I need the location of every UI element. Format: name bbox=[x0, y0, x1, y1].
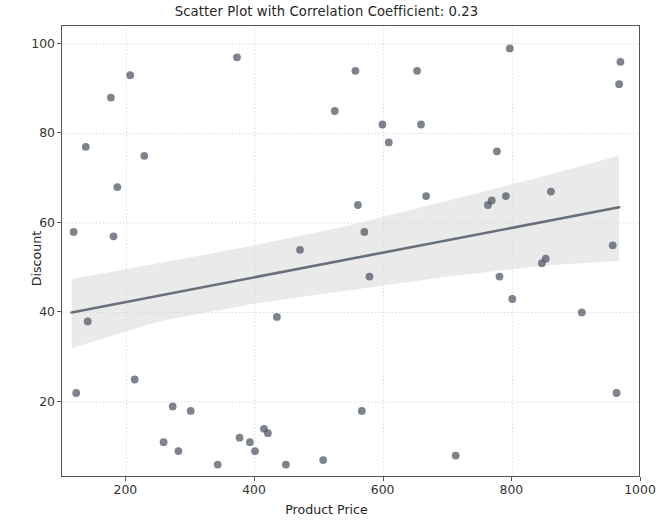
data-point bbox=[352, 67, 360, 75]
y-tick-label: 60 bbox=[15, 214, 55, 229]
data-point bbox=[542, 255, 550, 263]
x-tick-label: 400 bbox=[242, 482, 266, 497]
data-point bbox=[70, 228, 78, 236]
data-point bbox=[488, 197, 496, 205]
data-point bbox=[296, 246, 304, 254]
x-tick-mark bbox=[383, 477, 384, 481]
data-point bbox=[107, 94, 115, 102]
data-point bbox=[379, 121, 387, 129]
x-tick-label: 200 bbox=[114, 482, 138, 497]
data-point bbox=[613, 389, 621, 397]
data-point bbox=[175, 447, 183, 455]
data-point bbox=[385, 139, 393, 147]
x-tick-label: 800 bbox=[500, 482, 524, 497]
data-point bbox=[609, 241, 617, 249]
confidence-band bbox=[72, 156, 619, 348]
data-point bbox=[354, 201, 362, 209]
data-point bbox=[417, 121, 425, 129]
data-point bbox=[502, 192, 510, 200]
x-tick-label: 600 bbox=[371, 482, 395, 497]
data-point bbox=[82, 143, 90, 151]
y-tick-label: 40 bbox=[15, 304, 55, 319]
y-tick-label: 20 bbox=[15, 393, 55, 408]
data-point bbox=[246, 438, 254, 446]
data-point bbox=[187, 407, 195, 415]
data-point bbox=[506, 45, 514, 53]
y-tick-mark bbox=[57, 311, 61, 312]
page-title: Scatter Plot with Correlation Coefficien… bbox=[0, 4, 653, 19]
data-point bbox=[160, 438, 168, 446]
y-tick-mark bbox=[57, 222, 61, 223]
data-point bbox=[126, 71, 134, 79]
data-point bbox=[264, 429, 272, 437]
data-point bbox=[358, 407, 366, 415]
plot-canvas bbox=[62, 26, 640, 477]
x-tick-mark bbox=[254, 477, 255, 481]
data-point bbox=[84, 318, 92, 326]
data-point bbox=[110, 232, 118, 240]
data-point bbox=[236, 434, 244, 442]
y-tick-mark bbox=[57, 43, 61, 44]
data-point bbox=[493, 147, 501, 155]
data-point bbox=[422, 192, 430, 200]
x-tick-label: 1000 bbox=[624, 482, 656, 497]
data-point bbox=[113, 183, 121, 191]
data-point bbox=[140, 152, 148, 160]
x-tick-mark bbox=[125, 477, 126, 481]
y-tick-mark bbox=[57, 401, 61, 402]
data-point bbox=[508, 295, 516, 303]
x-axis-label: Product Price bbox=[0, 502, 653, 517]
data-point bbox=[547, 188, 555, 196]
data-point bbox=[361, 228, 369, 236]
data-point bbox=[617, 58, 625, 66]
y-tick-mark bbox=[57, 132, 61, 133]
data-point bbox=[131, 376, 139, 384]
data-point bbox=[72, 389, 80, 397]
y-tick-label: 80 bbox=[15, 125, 55, 140]
data-point bbox=[214, 461, 222, 469]
data-point bbox=[578, 309, 586, 317]
data-point bbox=[273, 313, 281, 321]
data-point bbox=[319, 456, 327, 464]
data-point bbox=[366, 273, 374, 281]
data-point bbox=[331, 107, 339, 115]
data-point bbox=[413, 67, 421, 75]
data-point bbox=[615, 80, 623, 88]
data-point bbox=[452, 452, 460, 460]
data-point bbox=[251, 447, 259, 455]
data-point bbox=[169, 403, 177, 411]
plot-area bbox=[61, 25, 640, 477]
x-tick-mark bbox=[511, 477, 512, 481]
data-point bbox=[233, 53, 241, 61]
data-point bbox=[282, 461, 290, 469]
data-point bbox=[496, 273, 504, 281]
x-tick-mark bbox=[640, 477, 641, 481]
y-tick-label: 100 bbox=[15, 35, 55, 50]
